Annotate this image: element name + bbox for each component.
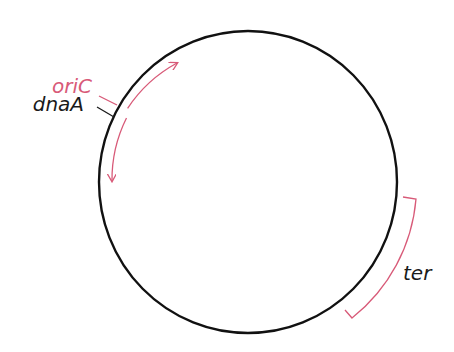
- chromosome-circle: [99, 31, 397, 333]
- replication-fork-arrow-counterclockwise: [112, 118, 127, 181]
- ter-region-bracket: [345, 197, 416, 318]
- dnaa-marker-line: [97, 107, 114, 117]
- dnaa-label: dnaA: [33, 92, 84, 116]
- replication-fork-arrow-clockwise: [128, 63, 177, 108]
- oric-marker-line: [99, 96, 117, 105]
- chromosome-diagram: oriC dnaA ter: [0, 0, 454, 352]
- ter-label: ter: [403, 261, 433, 285]
